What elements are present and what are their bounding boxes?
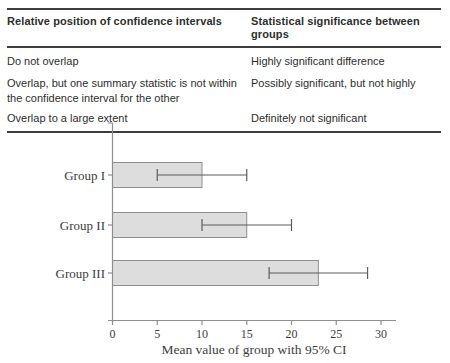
table-cell-position: Do not overlap bbox=[7, 54, 251, 69]
figure-page: Relative position of confidence interval… bbox=[0, 0, 450, 363]
table-header-significance: Statistical significance between groups bbox=[251, 15, 441, 41]
table-header-position: Relative position of confidence interval… bbox=[7, 15, 251, 41]
category-label-1: Group I bbox=[64, 168, 105, 183]
table-row: Overlap, but one summary statistic is no… bbox=[7, 73, 441, 108]
table-cell-significance: Possibly significant, but not highly bbox=[251, 76, 441, 106]
x-axis-label: Mean value of group with 95% CI bbox=[161, 342, 347, 357]
x-tick-label-25: 25 bbox=[330, 327, 342, 341]
category-label-2: Group II bbox=[60, 218, 105, 233]
category-label-3: Group III bbox=[56, 266, 105, 281]
table-header-row: Relative position of confidence interval… bbox=[7, 10, 441, 48]
table-cell-position: Overlap, but one summary statistic is no… bbox=[7, 76, 251, 106]
x-tick-label-10: 10 bbox=[196, 327, 208, 341]
x-tick-label-30: 30 bbox=[375, 327, 387, 341]
x-tick-label-5: 5 bbox=[154, 327, 160, 341]
table-cell-significance: Highly significant difference bbox=[251, 54, 441, 69]
table-row: Do not overlap Highly significant differ… bbox=[7, 48, 441, 73]
x-tick-label-20: 20 bbox=[286, 327, 298, 341]
ci-bar-chart: Group IGroup IIGroup III051015202530Mean… bbox=[0, 113, 450, 363]
x-tick-label-15: 15 bbox=[241, 327, 253, 341]
x-tick-label-0: 0 bbox=[110, 327, 116, 341]
